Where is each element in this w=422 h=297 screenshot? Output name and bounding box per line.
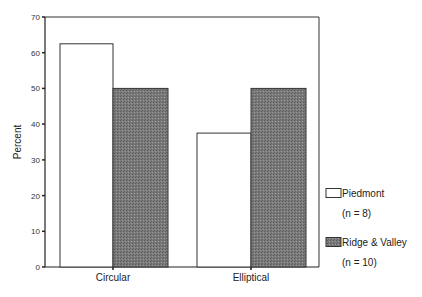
bar-circular-piedmont (60, 44, 113, 267)
x-categories: Circular Elliptical (96, 267, 270, 283)
y-tick-label: 20 (31, 192, 40, 201)
y-tick-label: 30 (31, 156, 40, 165)
legend-swatch-ridge-valley (326, 238, 341, 247)
y-tick-label: 50 (31, 84, 40, 93)
legend: Piedmont (n = 8) Ridge & Valley (n = 10) (326, 188, 407, 268)
legend-swatch-piedmont (326, 189, 341, 198)
y-tick-label: 10 (31, 227, 40, 236)
legend-item-piedmont: Piedmont (n = 8) (326, 188, 384, 219)
legend-note: (n = 8) (342, 208, 371, 219)
legend-label: Ridge & Valley (342, 237, 407, 248)
y-tick-label: 40 (31, 120, 40, 129)
bar-elliptical-ridge-valley (251, 88, 306, 267)
y-tick-label: 0 (36, 263, 41, 272)
x-category-label: Circular (96, 272, 131, 283)
y-tick-label: 70 (31, 13, 40, 22)
bar-chart: 0 10 20 30 40 50 60 70 Percent Circular … (0, 0, 422, 297)
legend-note: (n = 10) (342, 257, 377, 268)
y-ticks: 0 10 20 30 40 50 60 70 (31, 13, 45, 272)
legend-item-ridge-valley: Ridge & Valley (n = 10) (326, 237, 407, 268)
bar-elliptical-piedmont (197, 133, 251, 267)
legend-label: Piedmont (342, 188, 384, 199)
y-axis-title: Percent (12, 125, 23, 160)
bars (60, 44, 306, 267)
y-tick-label: 60 (31, 49, 40, 58)
x-category-label: Elliptical (233, 272, 270, 283)
bar-circular-ridge-valley (113, 88, 168, 267)
